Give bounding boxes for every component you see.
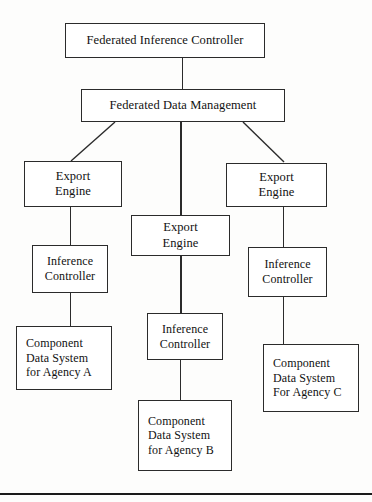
connector-inference-controller-a-to-component-a xyxy=(70,293,71,326)
node-export-engine-a: Export Engine xyxy=(24,161,122,207)
connector-export-engine-a-to-inference-controller-a xyxy=(70,207,71,245)
connector-fdm-to-export-engine-b xyxy=(180,122,182,215)
node-inference-controller-a: Inference Controller xyxy=(32,245,108,293)
node-label: Export Engine xyxy=(55,169,91,200)
node-label: Federated Data Management xyxy=(110,98,257,113)
node-component-data-system-a: Component Data System for Agency A xyxy=(16,326,112,390)
node-label: Inference Controller xyxy=(45,254,95,283)
connector-inference-controller-b-to-component-b xyxy=(180,360,181,400)
node-label: Federated Inference Controller xyxy=(86,33,243,48)
connector-export-engine-b-to-inference-controller-b xyxy=(180,256,182,313)
node-label: Component Data System for Agency A xyxy=(17,336,92,380)
connector-export-engine-c-to-inference-controller-c xyxy=(283,207,284,247)
diagram-canvas: Federated Inference Controller Federated… xyxy=(0,0,372,502)
connector-inference-controller-c-to-component-c xyxy=(283,297,284,344)
node-inference-controller-b: Inference Controller xyxy=(147,313,223,360)
node-component-data-system-b: Component Data System for Agency B xyxy=(138,400,232,471)
node-label: Component Data System for Agency B xyxy=(139,414,214,458)
node-federated-inference-controller: Federated Inference Controller xyxy=(65,23,265,58)
node-component-data-system-c: Component Data System For Agency C xyxy=(263,344,359,412)
page-bottom-rule xyxy=(0,493,372,495)
node-export-engine-b: Export Engine xyxy=(131,215,230,256)
node-label: Export Engine xyxy=(162,220,198,251)
node-label: Inference Controller xyxy=(160,322,210,351)
node-label: Inference Controller xyxy=(262,257,312,286)
node-federated-data-management: Federated Data Management xyxy=(81,89,285,122)
node-inference-controller-c: Inference Controller xyxy=(248,247,327,297)
node-export-engine-c: Export Engine xyxy=(226,163,327,207)
node-label: Export Engine xyxy=(258,170,294,201)
node-label: Component Data System For Agency C xyxy=(264,356,342,400)
